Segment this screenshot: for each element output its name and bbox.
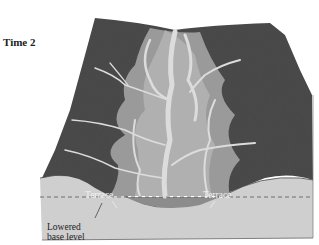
terrace-label-right: Terrace [203, 190, 231, 200]
block-diagram [0, 0, 319, 245]
terrace-label-left: Terrace [85, 190, 113, 200]
lowered-label-line1: Lowered [47, 222, 85, 232]
lowered-base-level-label: Lowered base level [47, 222, 85, 242]
lowered-label-line2: base level [47, 232, 85, 242]
